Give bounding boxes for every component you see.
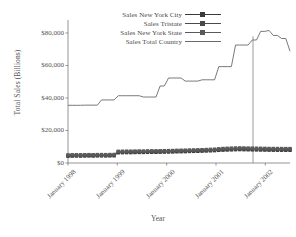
y-tick-label: $60,000 (20, 61, 64, 69)
y-tick-label: $40,000 (20, 94, 64, 102)
y-tick-label: $20,000 (20, 126, 64, 134)
legend-entry[interactable]: Sales Tristate (58, 19, 221, 28)
legend-label: Sales Tristate (144, 20, 185, 28)
legend-label: Sales New York State (120, 29, 185, 37)
legend-entry[interactable]: Sales New York City (58, 10, 221, 19)
legend-entry[interactable]: Sales Total Country (58, 37, 221, 46)
chart-figure: Total Sales (Billions) Year $0$20,000$40… (0, 0, 296, 237)
legend-key-swatch (185, 19, 221, 28)
y-axis-title: Total Sales (Billions) (13, 35, 22, 131)
y-tick-label: $0 (20, 159, 64, 167)
legend-key-swatch (185, 10, 221, 19)
legend-label: Sales New York City (122, 11, 185, 19)
legend-key-swatch (185, 28, 221, 37)
legend-label: Sales Total Country (126, 38, 185, 46)
legend-entry[interactable]: Sales New York State (58, 28, 221, 37)
legend-key-swatch (185, 37, 221, 46)
x-axis-title: Year (98, 214, 218, 223)
